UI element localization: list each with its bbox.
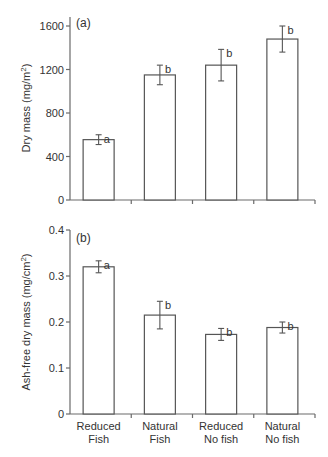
bar: [206, 65, 237, 200]
bars-b: abbb: [83, 259, 298, 414]
bar: [83, 140, 114, 200]
y-axis-title-b-end: ): [20, 253, 32, 257]
category-label-line1: Reduced: [77, 420, 121, 432]
bar: [267, 328, 298, 414]
y-tick-label: 0: [58, 408, 64, 420]
bar: [206, 334, 237, 414]
significance-letter: b: [226, 326, 232, 338]
significance-letter: b: [165, 299, 171, 311]
y-tick-label: 0: [58, 194, 64, 206]
category-label-line1: Natural: [142, 420, 177, 432]
y-ticks-b: 00.10.20.30.4: [49, 224, 70, 420]
bar: [267, 39, 298, 200]
panel-b-ash-free-dry-mass: 00.10.20.30.4 abbb (b) Ash-free dry mass…: [19, 224, 315, 420]
category-label-line2: Fish: [149, 433, 170, 445]
category-label-line1: Reduced: [199, 420, 243, 432]
significance-letter: b: [287, 24, 293, 36]
significance-letter: a: [104, 259, 111, 271]
bar-chart-figure: 040080012001600 abbb (a) Dry mass (mg/m2…: [0, 0, 328, 457]
category-label-line1: Natural: [265, 420, 300, 432]
bar: [83, 267, 114, 414]
category-label-line2: No fish: [265, 433, 299, 445]
significance-letter: b: [226, 47, 232, 59]
y-tick-label: 0.3: [49, 270, 64, 282]
significance-letter: a: [104, 133, 111, 145]
y-axis-title-b-text: Ash-free dry mass (mg/cm: [20, 262, 32, 391]
y-tick-label: 0.1: [49, 362, 64, 374]
y-tick-label: 400: [46, 151, 64, 163]
panel-label-b: (b): [76, 231, 91, 245]
y-axis-title-a: Dry mass (mg/m2): [19, 64, 32, 153]
significance-letter: b: [165, 63, 171, 75]
bars-a: abbb: [83, 24, 298, 200]
panel-label-a: (a): [76, 16, 91, 30]
y-tick-label: 1200: [40, 64, 64, 76]
y-tick-label: 0.2: [49, 316, 64, 328]
panel-a-dry-mass: 040080012001600 abbb (a) Dry mass (mg/m2…: [19, 16, 315, 206]
significance-letter: b: [287, 320, 293, 332]
bar: [144, 75, 175, 200]
y-tick-label: 1600: [40, 20, 64, 32]
bar: [144, 315, 175, 414]
category-label-line2: No fish: [204, 433, 238, 445]
y-axis-title-a-end: ): [20, 64, 32, 68]
category-label-line2: Fish: [88, 433, 109, 445]
y-axis-title-b: Ash-free dry mass (mg/cm2): [19, 253, 32, 390]
y-axis-title-a-text: Dry mass (mg/m: [20, 72, 32, 153]
y-ticks-a: 040080012001600: [40, 20, 70, 206]
category-labels: ReducedFishNaturalFishReducedNo fishNatu…: [77, 420, 301, 445]
y-tick-label: 800: [46, 107, 64, 119]
y-tick-label: 0.4: [49, 224, 64, 236]
